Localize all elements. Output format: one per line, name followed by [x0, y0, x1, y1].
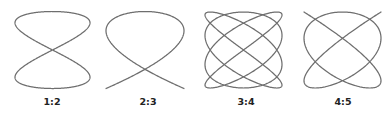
ratio-label-4-5: 4:5 [323, 96, 363, 108]
lissajous-curve-3-4 [205, 12, 282, 88]
ratio-label-2-3: 2:3 [128, 96, 168, 108]
ratio-label-3-4: 3:4 [226, 96, 266, 108]
lissajous-curve-1-2 [15, 12, 90, 89]
ratio-label-1-2: 1:2 [32, 96, 72, 108]
lissajous-curve-2-3 [106, 12, 184, 89]
lissajous-curve-4-5 [304, 12, 381, 88]
